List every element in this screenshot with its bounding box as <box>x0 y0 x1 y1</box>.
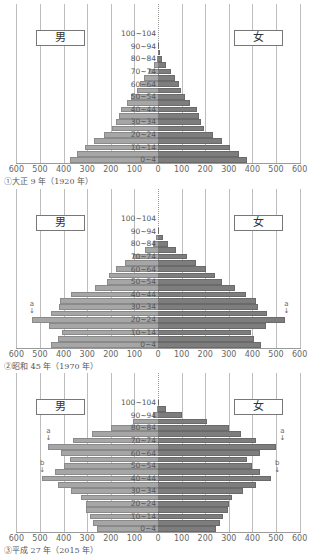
gridline <box>276 4 277 163</box>
male-label-box: 男 <box>36 215 85 231</box>
female-label-box: 女 <box>234 215 283 231</box>
x-axis-line <box>16 348 301 349</box>
x-tick-label: 300 <box>221 165 236 174</box>
female-bar <box>158 488 243 494</box>
age-label: 30~34 <box>131 487 156 494</box>
age-label: 40~44 <box>131 291 156 298</box>
gridline <box>16 4 17 163</box>
female-bar <box>158 419 207 425</box>
x-tick-label: 600 <box>292 350 307 359</box>
age-label: 70~74 <box>131 68 156 75</box>
female-bar <box>158 406 166 412</box>
chart-caption: ③平成 27 年（2015 年） <box>4 544 98 555</box>
pyramid-chart-3: 0~410~1420~2430~3440~4450~5460~6470~7480… <box>0 369 314 553</box>
female-bar <box>158 298 256 304</box>
gridline <box>300 4 301 163</box>
gridline <box>276 373 277 532</box>
x-tick-label: 500 <box>268 534 283 543</box>
female-bar <box>158 292 246 298</box>
age-label: 70~74 <box>131 437 156 444</box>
x-tick-label: 100 <box>127 350 142 359</box>
female-bar <box>158 279 222 285</box>
x-tick-label: 200 <box>198 165 213 174</box>
female-bar <box>158 151 239 157</box>
female-bar <box>158 438 256 444</box>
x-tick-label: 400 <box>245 534 260 543</box>
gridline <box>252 4 253 163</box>
x-tick-label: 600 <box>9 165 24 174</box>
x-tick-label: 200 <box>198 350 213 359</box>
age-label: 50~54 <box>131 278 156 285</box>
female-bar <box>158 444 276 450</box>
x-tick-label: 0 <box>155 534 160 543</box>
female-bar <box>158 457 247 463</box>
x-tick-label: 300 <box>221 534 236 543</box>
female-bar <box>158 317 285 323</box>
female-bar <box>158 400 159 406</box>
gridline <box>300 373 301 532</box>
age-label: 100~104 <box>121 215 156 222</box>
gridline <box>40 4 41 163</box>
female-bar <box>158 482 256 488</box>
age-label: 20~24 <box>131 131 156 138</box>
x-tick-label: 300 <box>221 350 236 359</box>
female-bar <box>158 469 260 475</box>
x-tick-label: 300 <box>80 534 95 543</box>
female-bar <box>158 81 179 87</box>
age-label: 60~64 <box>131 450 156 457</box>
x-tick-label: 500 <box>268 165 283 174</box>
x-tick-label: 600 <box>292 534 307 543</box>
female-bar <box>158 88 181 94</box>
age-label: 30~34 <box>131 118 156 125</box>
gridline <box>40 373 41 532</box>
annotation-marker-b: b↓ <box>39 460 45 474</box>
age-label: 50~54 <box>131 93 156 100</box>
age-label: 100~104 <box>121 399 156 406</box>
x-tick-label: 200 <box>103 350 118 359</box>
female-bar <box>158 323 266 329</box>
x-tick-label: 600 <box>9 534 24 543</box>
gridline <box>40 189 41 348</box>
x-tick-label: 0 <box>155 165 160 174</box>
female-bar <box>158 119 201 125</box>
x-tick-label: 200 <box>103 534 118 543</box>
female-bar <box>158 126 204 132</box>
gridline <box>300 189 301 348</box>
gridline <box>229 4 230 163</box>
female-bar <box>158 495 232 501</box>
x-tick-label: 500 <box>268 350 283 359</box>
gridline <box>276 189 277 348</box>
x-tick-label: 500 <box>32 165 47 174</box>
x-tick-label: 0 <box>155 350 160 359</box>
age-label: 10~14 <box>131 144 156 151</box>
x-tick-label: 600 <box>292 165 307 174</box>
female-label-box: 女 <box>234 30 283 46</box>
female-label-box: 女 <box>234 399 283 415</box>
female-bar <box>158 476 271 482</box>
annotation-marker-a: a↓ <box>279 428 285 442</box>
x-tick-label: 100 <box>174 534 189 543</box>
female-bar <box>158 330 251 336</box>
age-label: 50~54 <box>131 462 156 469</box>
x-tick-label: 500 <box>32 534 47 543</box>
female-bar <box>158 43 159 49</box>
x-tick-label: 100 <box>174 165 189 174</box>
gridline <box>16 189 17 348</box>
annotation-marker-b: b↓ <box>274 460 280 474</box>
pyramid-chart-1: 0~410~1420~2430~3440~4450~5460~6470~7480… <box>0 0 314 184</box>
x-tick-label: 400 <box>245 350 260 359</box>
gridline <box>64 4 65 163</box>
x-tick-label: 500 <box>32 350 47 359</box>
female-bar <box>158 50 160 56</box>
pyramid-chart-2: 0~410~1420~2430~3440~4450~5460~6470~7480… <box>0 185 314 369</box>
female-bar <box>158 107 197 113</box>
female-bar <box>158 228 159 234</box>
female-bar <box>158 145 230 151</box>
age-label: 40~44 <box>131 475 156 482</box>
female-bar <box>158 431 241 437</box>
male-label-box: 男 <box>36 399 85 415</box>
age-label: 20~24 <box>131 500 156 507</box>
age-label: 100~104 <box>121 30 156 37</box>
age-label: 60~64 <box>131 266 156 273</box>
female-bar <box>158 507 228 513</box>
